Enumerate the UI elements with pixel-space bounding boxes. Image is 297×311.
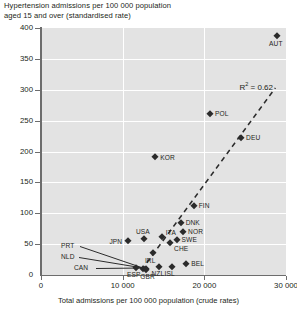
x-tick-30000 — [286, 276, 287, 280]
data-label-che: CHE — [174, 245, 188, 252]
data-label-irl: IRL — [145, 257, 156, 264]
data-label-prt: PRT — [61, 242, 74, 249]
data-label-bel: BEL — [191, 260, 204, 267]
x-axis-title: Total admissions per 100 000 population … — [0, 296, 297, 305]
data-label-aut: AUT — [269, 40, 283, 47]
x-tick-label-30000: 30 000 — [263, 281, 297, 290]
data-label-esp: ESP — [127, 271, 141, 278]
data-label-kor: KOR — [160, 154, 175, 161]
data-label-pol: POL — [215, 110, 229, 117]
x-tick-10000 — [123, 276, 124, 280]
y-tick-100 — [35, 213, 40, 214]
data-label-isl: ISL — [164, 270, 174, 277]
x-tick-0 — [41, 276, 42, 280]
data-label-fin: FIN — [199, 202, 210, 209]
y-tick-150 — [35, 182, 40, 183]
y-tick-350 — [35, 59, 40, 60]
data-label-swe: SWE — [182, 236, 197, 243]
data-label-nld: NLD — [61, 253, 75, 260]
r-squared-annotation: R2 = 0.62 — [239, 81, 273, 92]
y-tick-50 — [35, 244, 40, 245]
y-tick-300 — [35, 90, 40, 91]
x-tick-label-20000: 20 000 — [181, 281, 227, 290]
scatter-chart: Hypertension admissions per 100 000 popu… — [0, 0, 297, 311]
chart-overlay — [0, 0, 297, 311]
data-label-can: CAN — [74, 264, 88, 271]
x-tick-label-0: 0 — [18, 281, 64, 290]
x-tick-label-10000: 10 000 — [100, 281, 146, 290]
y-tick-250 — [35, 121, 40, 122]
y-tick-200 — [35, 152, 40, 153]
y-tick-400 — [35, 28, 40, 29]
data-label-gbr: GBR — [140, 273, 155, 280]
data-label-deu: DEU — [246, 134, 260, 141]
data-label-ita: ITA — [166, 229, 176, 236]
data-label-nor: NOR — [188, 228, 203, 235]
data-label-usa: USA — [136, 228, 150, 235]
x-tick-20000 — [204, 276, 205, 280]
data-label-jpn: JPN — [109, 238, 122, 245]
data-label-dnk: DNK — [186, 219, 200, 226]
